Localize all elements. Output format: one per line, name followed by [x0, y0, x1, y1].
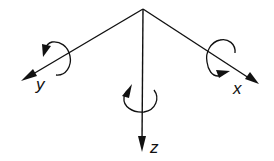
z-axis-arrowhead-icon	[138, 136, 146, 152]
x-axis-arrowhead-icon	[245, 72, 259, 84]
x-axis-line	[143, 9, 252, 80]
y-axis: y	[21, 9, 143, 94]
z-rotation-arrowhead-icon	[122, 84, 132, 98]
y-axis-label: y	[35, 75, 46, 94]
coordinate-axes-diagram: y x z	[0, 0, 274, 161]
y-axis-arrowhead-icon	[21, 69, 37, 81]
x-rotation-arrowhead-icon	[216, 70, 230, 78]
z-axis: z	[122, 9, 159, 157]
z-axis-line	[142, 9, 143, 142]
y-axis-line	[28, 9, 143, 77]
y-rotation-arrowhead-icon	[42, 44, 51, 57]
x-axis: x	[143, 9, 259, 98]
x-axis-label: x	[232, 79, 242, 98]
z-axis-label: z	[149, 138, 159, 157]
